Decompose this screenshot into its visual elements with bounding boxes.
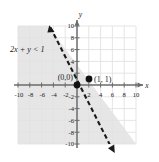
point-origin-marker <box>74 82 81 89</box>
point-origin-label: (0,0) <box>58 73 74 82</box>
x-axis-arrow-icon <box>138 83 144 88</box>
inequality-label: 2x + y < 1 <box>10 45 45 54</box>
x-tick-label: 10 <box>133 91 140 98</box>
inequality-graph-figure: -10 -8 -6 -4 -2 2 4 6 8 10 10 8 6 4 -2 -… <box>0 0 159 162</box>
x-tick-label: -8 <box>28 91 34 98</box>
y-tick-label: -10 <box>65 140 74 147</box>
y-tick-label: 10 <box>67 22 74 29</box>
x-tick-label: 2 <box>87 91 90 98</box>
point-one-one-marker <box>86 76 93 83</box>
y-axis-label: y <box>78 10 83 19</box>
y-tick-label: -2 <box>69 93 75 100</box>
y-tick-label: -8 <box>69 129 75 136</box>
x-tick-label: -6 <box>40 91 46 98</box>
x-tick-label: -10 <box>15 91 24 98</box>
point-one-one-label: (1, 1) <box>94 75 112 84</box>
x-tick-label: -4 <box>51 91 57 98</box>
boundary-line-arrow-down-icon <box>108 145 115 153</box>
coordinate-plane-svg: -10 -8 -6 -4 -2 2 4 6 8 10 10 8 6 4 -2 -… <box>0 0 159 162</box>
y-tick-label: -6 <box>69 117 75 124</box>
y-tick-label: -4 <box>69 105 75 112</box>
x-axis-label: x <box>144 81 149 90</box>
y-axis-arrow-icon <box>75 20 80 26</box>
